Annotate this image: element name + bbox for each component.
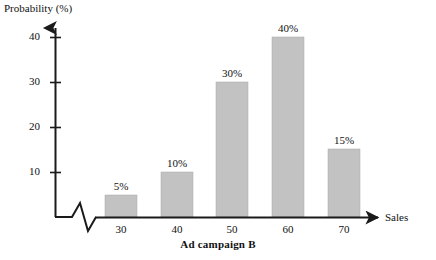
x-tick-label-30: 30 <box>101 223 141 235</box>
bar-40[interactable] <box>161 172 193 217</box>
bar-chart-figure: Probability (%) Sales 10 20 30 40 30 40 … <box>0 0 436 260</box>
bar-60[interactable] <box>272 37 304 217</box>
y-tick-label-20: 20 <box>14 120 40 132</box>
x-axis-title: Sales <box>385 211 408 223</box>
y-tick-label-40: 40 <box>14 30 40 42</box>
x-axis-break <box>55 203 96 231</box>
x-tick-label-60: 60 <box>268 223 308 235</box>
y-tick-label-30: 30 <box>14 75 40 87</box>
bar-label-70: 15% <box>322 134 366 146</box>
chart-title: Ad campaign B <box>0 238 436 250</box>
bar-label-50: 30% <box>210 67 254 79</box>
chart-canvas <box>0 0 436 260</box>
bar-30[interactable] <box>105 195 137 217</box>
bar-50[interactable] <box>216 82 248 217</box>
x-tick-label-50: 50 <box>212 223 252 235</box>
y-axis-title: Probability (%) <box>4 2 72 14</box>
bar-label-60: 40% <box>266 22 310 34</box>
bar-label-40: 10% <box>155 157 199 169</box>
bars-group <box>105 37 360 217</box>
bar-70[interactable] <box>328 149 360 217</box>
x-tick-label-70: 70 <box>324 223 364 235</box>
bar-label-30: 5% <box>99 180 143 192</box>
y-tick-label-10: 10 <box>14 165 40 177</box>
x-tick-label-40: 40 <box>157 223 197 235</box>
